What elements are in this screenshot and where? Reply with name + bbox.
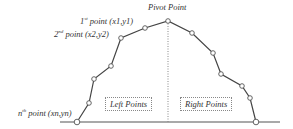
second-point-label: 2nd point (x2,y2): [54, 29, 109, 39]
point-marker: [109, 64, 114, 69]
point-marker: [143, 26, 148, 31]
convex-hull-diagram: Pivot Point 1st point (x1,y1) 2nd point …: [0, 0, 293, 129]
right-points-box: Right Points: [180, 97, 232, 111]
nth-point-label: nth point (xn,yn): [18, 108, 72, 118]
point-marker: [248, 96, 253, 101]
point-marker: [190, 31, 195, 36]
point-marker: [253, 119, 259, 125]
left-points-box: Left Points: [105, 97, 152, 111]
point-marker: [211, 51, 216, 56]
first-point-label: 1st point (x1,y1): [80, 16, 133, 26]
point-marker: [219, 72, 224, 77]
point-marker: [119, 36, 124, 41]
pivot-label: Pivot Point: [148, 2, 186, 12]
point-marker: [92, 77, 97, 82]
point-marker: [87, 101, 92, 106]
point-marker: [166, 19, 171, 24]
point-marker: [74, 119, 80, 125]
point-marker: [240, 84, 245, 89]
